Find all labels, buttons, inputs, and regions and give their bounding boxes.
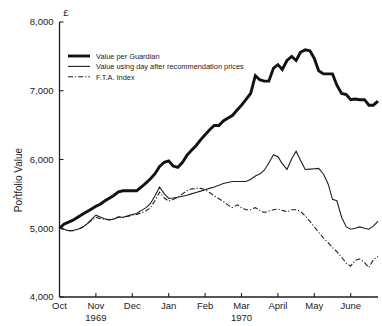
- legend-label: F.T.A. Index: [96, 73, 135, 82]
- x-axis-ticks: OctNovDecJanFebMarAprilMayJune: [52, 293, 361, 311]
- chart-legend: Value per GuardianValue using day after …: [68, 52, 244, 82]
- portfolio-value-line-chart: 8,0007,0006,0005,0004,000 OctNovDecJanFe…: [0, 0, 382, 326]
- x-tick-label: Dec: [124, 300, 141, 311]
- x-tick-label: Mar: [233, 300, 249, 311]
- legend-label: Value per Guardian: [96, 52, 160, 61]
- x-axis-year-labels: 19691970: [85, 312, 252, 323]
- x-tick-label: Jan: [161, 300, 176, 311]
- x-axis-year-label: 1970: [231, 312, 252, 323]
- x-tick-label: Feb: [197, 300, 213, 311]
- x-tick-label: June: [340, 300, 361, 311]
- x-axis-year-label: 1969: [85, 312, 106, 323]
- y-tick-label: 8,000: [30, 16, 54, 27]
- y-tick-label: 7,000: [30, 85, 54, 96]
- currency-unit-label: £: [63, 7, 69, 18]
- y-axis-ticks: 8,0007,0006,0005,0004,000: [30, 16, 64, 302]
- y-tick-label: 4,000: [30, 291, 54, 302]
- chart-container: 8,0007,0006,0005,0004,000 OctNovDecJanFe…: [0, 0, 382, 326]
- x-tick-label: Oct: [52, 300, 67, 311]
- series-day-after-prices-line: [60, 151, 379, 230]
- scan-speck-artifact: [13, 196, 15, 198]
- x-tick-label: April: [268, 300, 287, 311]
- x-tick-label: Nov: [87, 300, 104, 311]
- y-tick-label: 6,000: [30, 154, 54, 165]
- y-tick-label: 5,000: [30, 223, 54, 234]
- legend-label: Value using day after recommendation pri…: [96, 62, 244, 71]
- x-tick-label: May: [305, 300, 323, 311]
- y-axis-title: Portfolio Value: [13, 147, 24, 212]
